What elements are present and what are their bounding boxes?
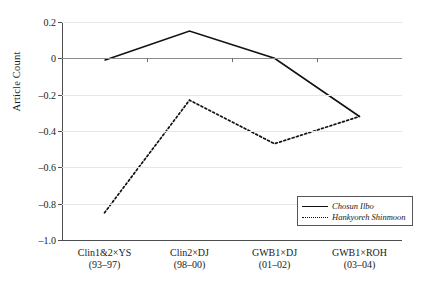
series-line-chosun-ilbo: [105, 31, 360, 116]
x-axis-label: GWB1×DJ(01–02): [252, 247, 297, 271]
chart-legend: Chosun Ilbo Hankyoreh Shinmoon: [297, 196, 413, 226]
legend-dotted-line-icon: [302, 214, 328, 220]
x-tick-mark: [317, 58, 318, 62]
gridline-neg0_6: [62, 167, 402, 168]
x-tick-mark: [232, 58, 233, 62]
line-chart-figure: Article Count 0.20–0.2–0.4–0.6–0.8–1.0 C…: [0, 0, 427, 285]
legend-label-chosun-ilbo: Chosun Ilbo: [332, 201, 374, 211]
y-tick-label: –0.2: [39, 89, 57, 100]
y-tick-label: 0.2: [44, 17, 57, 28]
y-tick-mark: [58, 131, 62, 132]
y-tick-mark: [58, 22, 62, 23]
y-tick-mark: [58, 204, 62, 205]
y-tick-label: –0.6: [39, 162, 57, 173]
gridline-neg1: [62, 240, 402, 241]
y-tick-label: –0.8: [39, 198, 57, 209]
y-tick-label: 0: [51, 53, 56, 64]
y-tick-label: –0.4: [39, 126, 57, 137]
x-axis-label: GWB1×ROH(03–04): [332, 247, 387, 271]
x-axis-label: Clin2×DJ(98–00): [170, 247, 209, 271]
gridline-neg0_4: [62, 131, 402, 132]
legend-item-chosun-ilbo: Chosun Ilbo: [302, 200, 406, 211]
y-tick-mark: [58, 58, 62, 59]
y-axis-title: Article Count: [11, 22, 22, 142]
y-tick-mark: [58, 240, 62, 241]
gridline-neg0_2: [62, 95, 402, 96]
legend-label-hankyoreh-shinmoon: Hankyoreh Shinmoon: [332, 212, 406, 222]
legend-item-hankyoreh-shinmoon: Hankyoreh Shinmoon: [302, 211, 406, 222]
legend-solid-line-icon: [302, 203, 328, 209]
y-tick-mark: [58, 167, 62, 168]
x-tick-mark: [147, 58, 148, 62]
y-tick-mark: [58, 95, 62, 96]
y-tick-label: –1.0: [39, 235, 57, 246]
x-axis-label: Clin1&2×YS(93–97): [78, 247, 131, 271]
gridline-0_2: [62, 22, 402, 23]
